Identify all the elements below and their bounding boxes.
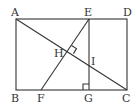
segment-ef: [41, 19, 89, 90]
label-a: A: [10, 6, 20, 19]
label-g: G: [84, 92, 93, 105]
label-d: D: [123, 6, 132, 19]
right-angle-mark-h: [72, 46, 77, 54]
segment-ac: [16, 19, 127, 90]
label-f: F: [37, 92, 45, 105]
label-h: H: [54, 47, 64, 60]
geometry-diagram: A E D B F G C H I: [0, 0, 137, 107]
right-angle-mark-g: [83, 84, 89, 90]
label-c: C: [122, 92, 130, 105]
label-e: E: [84, 6, 92, 19]
label-i: I: [91, 55, 95, 68]
label-b: B: [11, 92, 19, 105]
